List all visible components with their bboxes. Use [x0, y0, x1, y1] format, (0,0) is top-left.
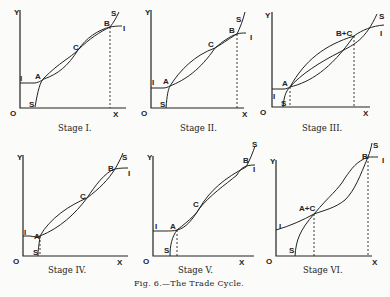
origin-label: O: [143, 257, 149, 266]
s-label-low: S: [281, 99, 287, 108]
i-label-left: I: [152, 78, 154, 87]
point-c-label: C: [208, 40, 214, 49]
axes: [151, 10, 244, 108]
stage-label: Stage VI.: [303, 265, 343, 275]
figure-caption: Fig. 6.—The Trade Cycle.: [134, 279, 244, 288]
y-axis-label: Y: [270, 157, 276, 166]
origin-label: O: [260, 108, 266, 117]
origin-label: O: [141, 109, 147, 118]
i-label-right: I: [253, 165, 255, 174]
i-curve: [272, 25, 384, 89]
x-axis-label: X: [239, 258, 245, 267]
s-label-high: S: [122, 153, 128, 162]
point-bc-label: B+C: [336, 29, 352, 38]
point-ac-label: A+C: [299, 204, 315, 213]
panel-stage-6: Y X O S S I I A+C B Stage VI.: [266, 141, 384, 275]
s-curve: [295, 143, 372, 256]
i-curve: [276, 157, 378, 230]
s-label-low: S: [164, 246, 170, 255]
point-c-label: C: [80, 192, 86, 201]
point-b-label: B: [104, 19, 110, 28]
x-axis-label: X: [372, 258, 378, 267]
i-label-left: I: [279, 222, 281, 231]
point-b-label: B: [108, 164, 114, 173]
stage-label: Stage IV.: [48, 265, 86, 275]
s-label-high: S: [111, 9, 117, 18]
point-c-label: C: [73, 43, 79, 52]
point-b-label: B: [229, 26, 235, 35]
point-a-label: A: [282, 79, 288, 88]
axes: [272, 12, 370, 107]
point-a-label: A: [163, 77, 169, 86]
s-label-low: S: [289, 246, 295, 255]
s-label-high: S: [373, 141, 379, 150]
point-a-label: A: [34, 232, 40, 241]
s-label-low: S: [29, 100, 35, 109]
point-a-label: A: [35, 72, 41, 81]
y-axis-label: Y: [265, 11, 271, 20]
stage-label: Stage V.: [178, 265, 213, 275]
stage-label: Stage II.: [180, 123, 217, 133]
i-curve: [153, 165, 255, 231]
point-b-label: B: [243, 156, 249, 165]
y-axis-label: Y: [147, 153, 153, 162]
i-label-left: I: [273, 92, 275, 101]
y-axis-label: Y: [145, 8, 151, 17]
x-axis-label: X: [363, 109, 369, 118]
i-label-left: I: [24, 228, 26, 237]
i-label-right: I: [128, 169, 130, 178]
i-label-left: I: [20, 74, 22, 83]
origin-label: O: [266, 257, 272, 266]
stage-label: Stage I.: [58, 123, 92, 133]
s-label-high: S: [252, 140, 258, 149]
i-label-left: I: [155, 222, 157, 231]
x-axis-label: X: [113, 110, 119, 119]
y-axis-label: Y: [14, 8, 20, 17]
s-label-low: S: [160, 100, 166, 109]
i-label-right: I: [380, 29, 382, 38]
i-label-right: I: [382, 156, 384, 165]
s-label-low: S: [33, 248, 39, 257]
panel-stage-5: Y X O S S I I A C B Stage V.: [143, 140, 258, 275]
origin-label: O: [13, 257, 19, 266]
point-b-label: B: [362, 152, 368, 161]
s-label-high: S: [379, 12, 385, 21]
s-curve: [283, 14, 377, 107]
i-curve: [23, 168, 128, 237]
i-label-right: I: [250, 33, 252, 42]
x-axis-label: X: [242, 110, 248, 119]
stage-label: Stage III.: [302, 123, 342, 133]
panel-stage-1: Y X O S S I I A C B Stage I.: [10, 8, 126, 133]
s-label-high: S: [236, 15, 242, 24]
point-a-label: A: [170, 222, 176, 231]
panel-stage-4: Y X O S S I I A C B Stage IV.: [13, 153, 130, 275]
trade-cycle-figure: Y X O S S I I A C B Stage I. Y X O S S I…: [0, 0, 390, 297]
i-label-right: I: [123, 24, 125, 33]
axes: [276, 160, 372, 256]
x-axis-label: X: [117, 258, 123, 267]
panel-stage-2: Y X O S S I I A C B Stage II.: [141, 8, 252, 133]
origin-label: O: [10, 109, 16, 118]
panel-stage-3: Y X O S S I I A B+C Stage III.: [260, 11, 385, 133]
y-axis-label: Y: [17, 153, 23, 162]
point-c-label: C: [193, 200, 199, 209]
